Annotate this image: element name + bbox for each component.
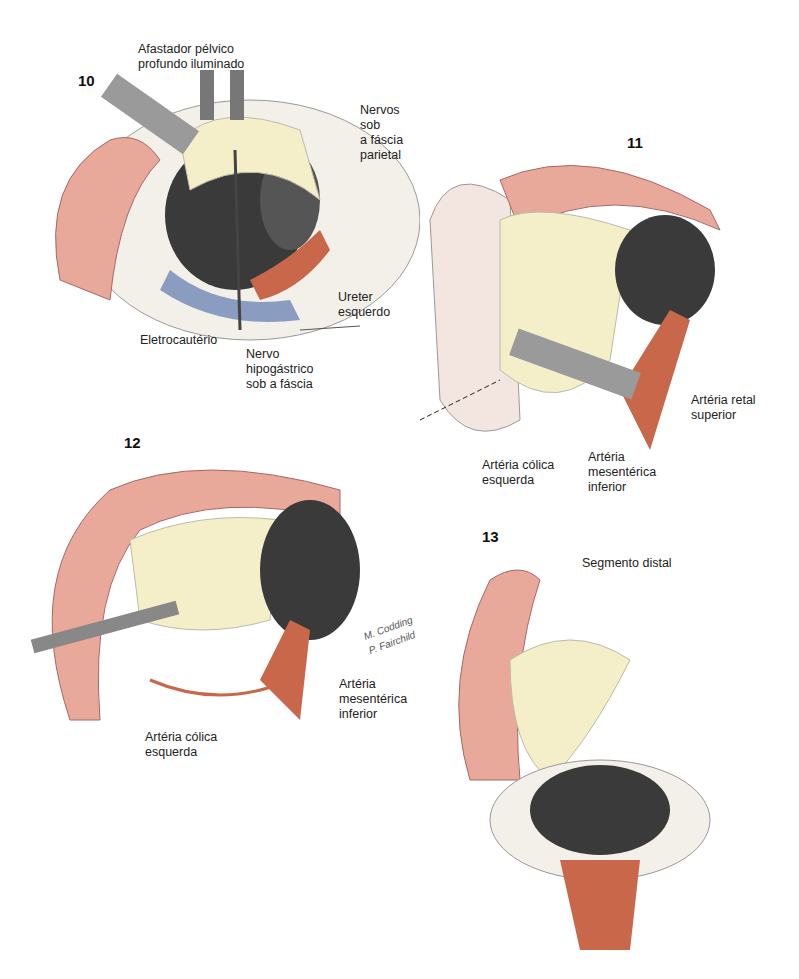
panel-11: 11 Artéria retal superior Artéria cólica… (410, 120, 799, 500)
label-colic-artery: Artéria cólica esquerda (145, 730, 217, 760)
panel-12: 12 Artéria mesentérica inferior Artéria … (0, 420, 420, 780)
illustration-panel-12 (0, 420, 420, 780)
label-colic-artery: Artéria cólica esquerda (482, 458, 554, 488)
illustration-panel-11 (410, 120, 799, 500)
label-rectal-artery: Artéria retal superior (691, 393, 756, 423)
label-mesenteric-artery: Artéria mesentérica inferior (588, 450, 656, 495)
label-ureter: Ureter esquerdo (338, 290, 390, 320)
panel-number: 10 (78, 72, 95, 89)
label-cautery: Eletrocautério (140, 333, 217, 348)
panel-number: 13 (482, 528, 499, 545)
illustration-panel-13 (430, 520, 799, 979)
label-distal-segment: Segmento distal (582, 556, 672, 571)
label-mesenteric-artery: Artéria mesentérica inferior (339, 677, 407, 722)
panel-number: 12 (124, 434, 141, 451)
panel-10: 10 Afastador pélvico profundo iluminado … (0, 0, 420, 420)
panel-13: 13 Segmento distal (430, 520, 799, 979)
panel-number: 11 (627, 134, 643, 151)
label-hypogastric: Nervo hipogástrico sob a fáscia (246, 347, 313, 392)
label-retractor: Afastador pélvico profundo iluminado (138, 42, 244, 72)
